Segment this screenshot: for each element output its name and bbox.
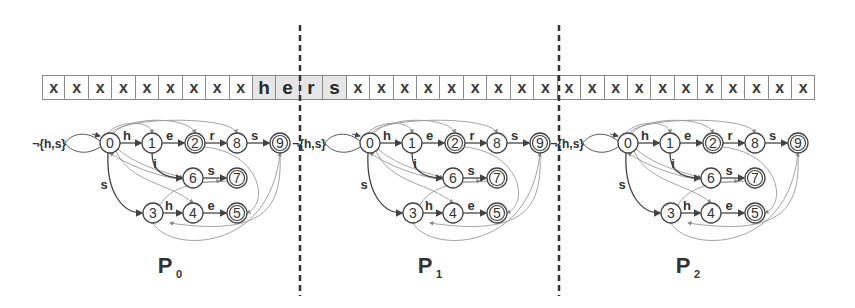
svg-text:9: 9 xyxy=(276,135,284,151)
edge-label: h xyxy=(641,128,649,143)
failure-link xyxy=(671,153,798,240)
svg-text:2: 2 xyxy=(709,135,717,151)
edge-label: i xyxy=(153,156,157,171)
state-node-1: 1 xyxy=(142,133,162,153)
edge-label: h xyxy=(425,198,433,213)
edge-label: e xyxy=(426,128,433,143)
svg-text:8: 8 xyxy=(493,135,501,151)
aho-corasick-diagram: xxxxxxxxxhersxxxxxxxxxxxxxxxxxxxx ¬{h,s}… xyxy=(0,0,855,308)
state-node-8: 8 xyxy=(227,133,247,153)
edge-label: s xyxy=(618,177,625,192)
edge-label: s xyxy=(467,163,474,178)
state-node-4: 4 xyxy=(183,203,203,223)
automaton-panel-2: ¬{h,s}hersisshe0128967345P2 xyxy=(550,120,808,280)
svg-text:3: 3 xyxy=(149,205,157,221)
self-loop-label: ¬{h,s} xyxy=(32,137,66,151)
state-node-8: 8 xyxy=(745,133,765,153)
svg-text:4: 4 xyxy=(449,205,457,221)
svg-text:9: 9 xyxy=(794,135,802,151)
edge-label: r xyxy=(469,128,474,143)
edge-label: h xyxy=(123,128,131,143)
state-node-6: 6 xyxy=(701,168,721,188)
failure-link xyxy=(153,153,280,240)
state-node-5: 5 xyxy=(745,203,765,223)
svg-text:1: 1 xyxy=(148,135,156,151)
state-node-0: 0 xyxy=(100,133,120,153)
state-node-3: 3 xyxy=(143,203,163,223)
state-node-0: 0 xyxy=(618,133,638,153)
edge-label: s xyxy=(511,128,518,143)
state-node-8: 8 xyxy=(487,133,507,153)
svg-text:6: 6 xyxy=(707,170,715,186)
svg-text:4: 4 xyxy=(707,205,715,221)
edge-label: r xyxy=(727,128,732,143)
panel-subscript: 1 xyxy=(436,268,442,280)
edge-label: s xyxy=(207,163,214,178)
svg-text:2: 2 xyxy=(191,135,199,151)
state-node-7: 7 xyxy=(487,168,507,188)
edge-label: e xyxy=(725,198,732,213)
state-node-3: 3 xyxy=(661,203,681,223)
self-loop-label: ¬{h,s} xyxy=(292,137,326,151)
state-node-2: 2 xyxy=(445,133,465,153)
state-node-9: 9 xyxy=(530,133,550,153)
edge-label: h xyxy=(165,198,173,213)
svg-text:0: 0 xyxy=(366,135,374,151)
svg-text:0: 0 xyxy=(624,135,632,151)
state-node-9: 9 xyxy=(788,133,808,153)
svg-text:4: 4 xyxy=(189,205,197,221)
panel-subscript: 0 xyxy=(176,268,182,280)
svg-text:5: 5 xyxy=(233,205,241,221)
self-loop-edge xyxy=(325,134,360,152)
state-node-4: 4 xyxy=(443,203,463,223)
failure-link xyxy=(413,153,540,240)
edge-label: i xyxy=(671,156,675,171)
edge-label: e xyxy=(467,198,474,213)
self-loop-edge xyxy=(65,134,100,152)
svg-text:8: 8 xyxy=(233,135,241,151)
state-node-0: 0 xyxy=(360,133,380,153)
edge-label: i xyxy=(413,156,417,171)
automaton-panel-0: ¬{h,s}hersisshe0128967345P0 xyxy=(32,120,290,280)
state-node-1: 1 xyxy=(660,133,680,153)
svg-text:7: 7 xyxy=(233,170,241,186)
state-node-4: 4 xyxy=(701,203,721,223)
svg-text:5: 5 xyxy=(751,205,759,221)
edge-label: s xyxy=(769,128,776,143)
state-node-2: 2 xyxy=(185,133,205,153)
svg-text:3: 3 xyxy=(667,205,675,221)
panel-label: P xyxy=(676,253,691,278)
panel-label: P xyxy=(418,253,433,278)
edge-label: s xyxy=(360,177,367,192)
edge-label: e xyxy=(166,128,173,143)
edge-label: e xyxy=(207,198,214,213)
panel-subscript: 2 xyxy=(694,268,700,280)
svg-text:7: 7 xyxy=(751,170,759,186)
automata-canvas: ¬{h,s}hersisshe0128967345P0¬{h,s}hersiss… xyxy=(0,0,855,308)
state-node-6: 6 xyxy=(183,168,203,188)
edge-label: r xyxy=(209,128,214,143)
svg-text:3: 3 xyxy=(409,205,417,221)
svg-text:5: 5 xyxy=(493,205,501,221)
state-node-2: 2 xyxy=(703,133,723,153)
self-loop-edge xyxy=(583,134,618,152)
svg-text:9: 9 xyxy=(536,135,544,151)
svg-text:0: 0 xyxy=(106,135,114,151)
state-node-3: 3 xyxy=(403,203,423,223)
state-node-1: 1 xyxy=(402,133,422,153)
edge-label: h xyxy=(383,128,391,143)
state-node-5: 5 xyxy=(227,203,247,223)
automaton-panel-1: ¬{h,s}hersisshe0128967345P1 xyxy=(292,120,550,280)
svg-text:1: 1 xyxy=(408,135,416,151)
state-node-5: 5 xyxy=(487,203,507,223)
panel-label: P xyxy=(158,253,173,278)
state-node-7: 7 xyxy=(227,168,247,188)
state-node-9: 9 xyxy=(270,133,290,153)
svg-text:8: 8 xyxy=(751,135,759,151)
self-loop-label: ¬{h,s} xyxy=(550,137,584,151)
svg-text:2: 2 xyxy=(451,135,459,151)
edge-label: e xyxy=(684,128,691,143)
svg-text:7: 7 xyxy=(493,170,501,186)
edge-label: s xyxy=(251,128,258,143)
edge-label: h xyxy=(683,198,691,213)
